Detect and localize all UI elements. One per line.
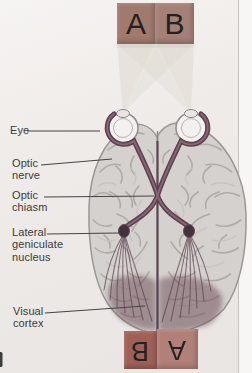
light-beams: [116, 44, 194, 113]
label-optic-nerve: Optic nerve: [12, 157, 54, 182]
stimulus-card-top-a: A: [117, 3, 155, 44]
label-eye: Eye: [10, 124, 29, 136]
left-eye-lens: [117, 110, 130, 118]
right-eye-lens: [185, 110, 198, 118]
stimulus-letter-top-a: A: [126, 9, 146, 39]
stimulus-card-bottom-b: B: [124, 331, 157, 369]
lgn-right: [184, 225, 195, 238]
label-visual-cortex: Visual cortex: [13, 305, 59, 330]
visual-cortex-region: [108, 276, 222, 332]
label-optic-chiasm: Optic chiasm: [12, 189, 60, 214]
figure-visual-pathway: A B B A Eye Optic nerve Optic chiasm Lat…: [0, 0, 252, 373]
scan-artifact: [0, 352, 3, 367]
stimulus-card-bottom-a: A: [157, 329, 198, 369]
stimulus-card-top-b: B: [155, 3, 194, 44]
stimulus-letter-bottom-a: A: [168, 336, 186, 363]
stimulus-letter-top-b: B: [164, 9, 184, 39]
card-shadow: [116, 44, 194, 47]
label-lateral-geniculate-nucleus: Lateral geniculate nucleus: [12, 226, 80, 263]
lgn-left: [119, 225, 130, 238]
stimulus-letter-bottom-b: B: [131, 337, 149, 364]
